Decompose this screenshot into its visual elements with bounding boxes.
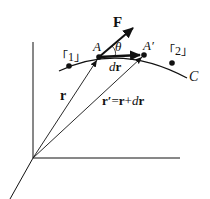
r-prime-r2: r — [138, 93, 144, 108]
r-vector-label: r — [60, 88, 66, 103]
force-label: F — [113, 14, 122, 30]
dr-label: dr — [109, 59, 122, 74]
r-prime-eq: = — [111, 93, 118, 108]
point-a-dot — [96, 54, 102, 60]
work-diagram: F A θ A′ 「1」 「2」 C dr r r′=r+dr — [0, 0, 210, 199]
x-axis — [10, 158, 33, 199]
r-vector-arrow — [33, 60, 97, 158]
point-a-label: A — [92, 39, 101, 54]
point-2-dot — [169, 60, 175, 66]
point-a-prime-dot — [141, 52, 147, 58]
coordinate-axes — [10, 42, 180, 199]
dr-vector-arrow — [99, 55, 140, 57]
curve-c-label: C — [189, 69, 199, 84]
r-prime-equation-label: r′=r+dr — [102, 93, 144, 108]
r-prime-lhs: r′ — [102, 93, 111, 108]
point-a-prime-label: A′ — [142, 38, 154, 53]
dr-r: r — [116, 59, 122, 74]
theta-label: θ — [115, 39, 122, 54]
point-2-label: 「2」 — [163, 44, 193, 58]
r-prime-plus: + — [125, 93, 132, 108]
point-1-label: 「1」 — [56, 50, 86, 64]
point-1-dot — [66, 63, 72, 69]
